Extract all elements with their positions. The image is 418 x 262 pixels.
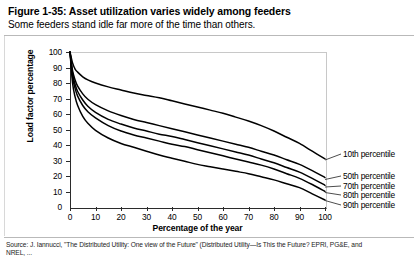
chart-container: Load factor percentage Percentage of the… xyxy=(0,36,418,236)
source-line-2: NREL, ... xyxy=(6,249,416,257)
figure-subtitle: Some feeders stand idle far more of the … xyxy=(8,19,410,31)
series-label-10th-percentile: 10th percentile xyxy=(343,150,395,158)
source-divider xyxy=(4,237,414,238)
leader-line-10th xyxy=(325,154,341,160)
source-note: Source: J. Iannucci, "The Distributed Ut… xyxy=(6,241,416,257)
leader-line-50th xyxy=(325,176,341,180)
leader-line-80th xyxy=(325,193,341,196)
leader-line-70th xyxy=(325,186,341,187)
leader-line-90th xyxy=(325,201,341,206)
series-label-90th-percentile: 90th percentile xyxy=(343,201,395,209)
figure-header: Figure 1-35: Asset utilization varies wi… xyxy=(0,0,418,34)
series-label-80th-percentile: 80th percentile xyxy=(343,191,395,199)
source-line-1: Source: J. Iannucci, "The Distributed Ut… xyxy=(6,241,362,248)
series-label-50th-percentile: 50th percentile xyxy=(343,172,395,180)
page-title: Figure 1-35: Asset utilization varies wi… xyxy=(8,5,410,18)
